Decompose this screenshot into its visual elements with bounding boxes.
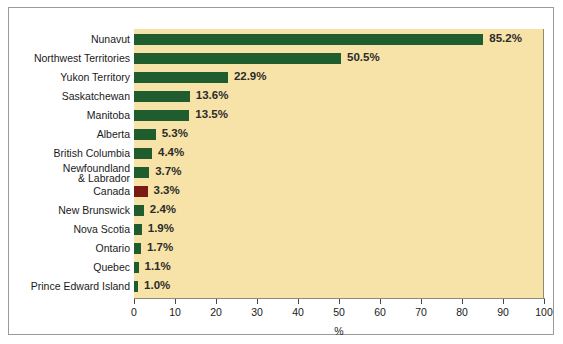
x-axis-tick-label: 50 [333,306,345,318]
chart-figure: NunavutNorthwest TerritoriesYukon Territ… [0,0,563,344]
category-label: Northwest Territories [8,53,130,64]
bar [134,167,149,178]
x-axis-tick [503,299,504,304]
category-label: Canada [8,186,130,197]
category-label: British Columbia [8,148,130,159]
bar-value-label: 13.6% [196,89,229,101]
bar-row: 13.5% [134,106,544,125]
bar-value-label: 22.9% [234,70,267,82]
bar-value-label: 4.4% [158,146,184,158]
category-label: Saskatchewan [8,91,130,102]
bar-value-label: 50.5% [347,51,380,63]
bar-value-label: 1.9% [148,222,174,234]
bar-row: 5.3% [134,125,544,144]
bar-row: 1.9% [134,220,544,239]
bar [134,110,189,121]
category-label: Prince Edward Island [8,281,130,292]
x-axis-tick [544,299,545,304]
bar [134,262,139,273]
x-axis-tick-label: 70 [415,306,427,318]
x-axis-tick [462,299,463,304]
bar [134,243,141,254]
bar-highlight [134,186,148,197]
x-axis-tick [421,299,422,304]
x-axis-tick-label: 30 [251,306,263,318]
bar-row: 1.0% [134,277,544,296]
category-label: Quebec [8,262,130,273]
bar-value-label: 1.0% [144,279,170,291]
category-label: Nova Scotia [8,224,130,235]
bar-value-label: 3.7% [155,165,181,177]
bar-row: 22.9% [134,68,544,87]
bar-value-label: 3.3% [154,184,180,196]
category-label: Yukon Territory [8,72,130,83]
x-axis-tick [216,299,217,304]
x-axis-tick-label: 100 [535,306,553,318]
bar [134,129,156,140]
x-axis-tick-label: 10 [169,306,181,318]
x-axis-tick-label: 20 [210,306,222,318]
category-label: Nunavut [8,34,130,45]
bar-row: 3.3% [134,182,544,201]
bar-value-label: 1.7% [147,241,173,253]
x-axis-tick-label: 90 [497,306,509,318]
figure-frame: NunavutNorthwest TerritoriesYukon Territ… [8,7,554,335]
bar-value-label: 85.2% [489,32,522,44]
category-label: Newfoundland & Labrador [8,163,130,183]
plot-area: 85.2%50.5%22.9%13.6%13.5%5.3%4.4%3.7%3.3… [134,29,544,298]
bar-row: 1.7% [134,239,544,258]
category-label: Manitoba [8,110,130,121]
bar [134,91,190,102]
bar-value-label: 5.3% [162,127,188,139]
bar [134,224,142,235]
x-axis-tick-label: 40 [292,306,304,318]
x-axis-tick-label: 80 [456,306,468,318]
x-axis-tick [175,299,176,304]
bar-row: 50.5% [134,49,544,68]
x-axis-tick-label: 0 [131,306,137,318]
bar [134,148,152,159]
category-label: New Brunswick [8,205,130,216]
category-label: Alberta [8,129,130,140]
bar-row: 3.7% [134,163,544,182]
category-label: Ontario [8,243,130,254]
x-axis-title: % [134,325,544,337]
bar [134,53,341,64]
bar [134,72,228,83]
bar-row: 1.1% [134,258,544,277]
bar [134,34,483,45]
x-axis-tick-label: 60 [374,306,386,318]
x-axis-tick [339,299,340,304]
bar [134,205,144,216]
x-axis-tick [380,299,381,304]
bar [134,281,138,292]
category-axis-labels: NunavutNorthwest TerritoriesYukon Territ… [9,29,130,298]
bar-row: 13.6% [134,87,544,106]
bar-value-label: 2.4% [150,203,176,215]
bar-row: 4.4% [134,144,544,163]
bar-row: 2.4% [134,201,544,220]
bar-value-label: 1.1% [145,260,171,272]
x-axis-tick [134,299,135,304]
x-axis-tick [298,299,299,304]
bar-row: 85.2% [134,30,544,49]
bar-value-label: 13.5% [195,108,228,120]
x-axis-tick [257,299,258,304]
